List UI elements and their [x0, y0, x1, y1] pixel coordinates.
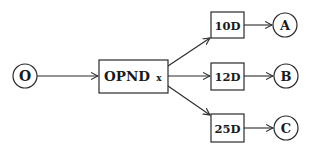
node-output-b: B	[274, 64, 298, 88]
flow-diagram: O OPND x 10D 12D 25D A B C	[0, 0, 316, 154]
node-output-a: A	[273, 13, 297, 37]
node-opnd-sub: x	[156, 73, 162, 83]
node-start-label: O	[19, 68, 31, 84]
node-opnd-label: OPND	[104, 68, 150, 84]
node-a-label: A	[279, 18, 291, 33]
node-12d: 12D	[211, 63, 244, 90]
node-25d-label: 25D	[215, 122, 241, 136]
node-opnd: OPND x	[99, 60, 168, 93]
node-12d-label: 12D	[215, 70, 241, 84]
node-b-label: B	[281, 69, 292, 84]
node-c-label: C	[281, 121, 291, 136]
edge-opnd-to-25d	[168, 86, 210, 115]
node-10d: 10D	[211, 12, 244, 38]
node-start-o: O	[13, 64, 37, 88]
edge-opnd-to-10d	[168, 38, 210, 66]
node-25d: 25D	[211, 114, 244, 142]
node-output-c: C	[274, 116, 298, 140]
node-10d-label: 10D	[215, 19, 241, 33]
